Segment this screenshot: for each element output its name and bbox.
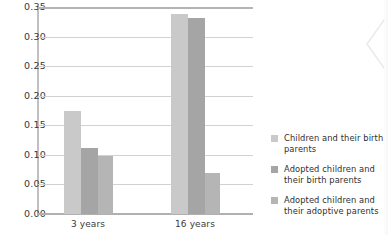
x-tick-label-3-years: 3 years xyxy=(58,219,118,229)
bar-chart-figure: 0.35 0.30 0.25 0.20 0.15 0.10 0.05 0.00 … xyxy=(0,0,388,235)
bar-3years-children-birth-parents xyxy=(64,111,81,215)
plot-area xyxy=(38,7,253,214)
legend-label: Children and their birth parents xyxy=(284,133,388,154)
bar-16years-children-birth-parents xyxy=(171,14,188,215)
bar-16years-adopted-birth-parents xyxy=(188,18,205,214)
legend-swatch-icon xyxy=(271,166,278,173)
scan-artifact xyxy=(364,18,386,72)
legend-item-adopted-adoptive-parents: Adopted children and their adoptive pare… xyxy=(271,195,388,217)
legend-item-adopted-birth-parents: Adopted children and their birth parents xyxy=(271,164,388,186)
gridline-030 xyxy=(38,37,253,38)
legend-item-children-birth-parents: Children and their birth parents xyxy=(271,133,388,155)
legend-swatch-icon xyxy=(271,135,278,142)
gridline-020 xyxy=(38,96,253,97)
gridline-025 xyxy=(38,66,253,67)
legend-swatch-icon xyxy=(271,197,278,204)
bar-3years-adopted-birth-parents xyxy=(81,148,98,214)
legend-label: Adopted children and their adoptive pare… xyxy=(284,195,388,216)
chart-legend: Children and their birth parents Adopted… xyxy=(271,133,388,226)
x-tick-label-16-years: 16 years xyxy=(165,219,225,229)
bar-16years-adopted-adoptive-parents xyxy=(205,173,220,214)
bar-3years-adopted-adoptive-parents xyxy=(98,156,113,214)
gridline-035 xyxy=(38,7,253,9)
legend-label: Adopted children and their birth parents xyxy=(284,164,388,185)
